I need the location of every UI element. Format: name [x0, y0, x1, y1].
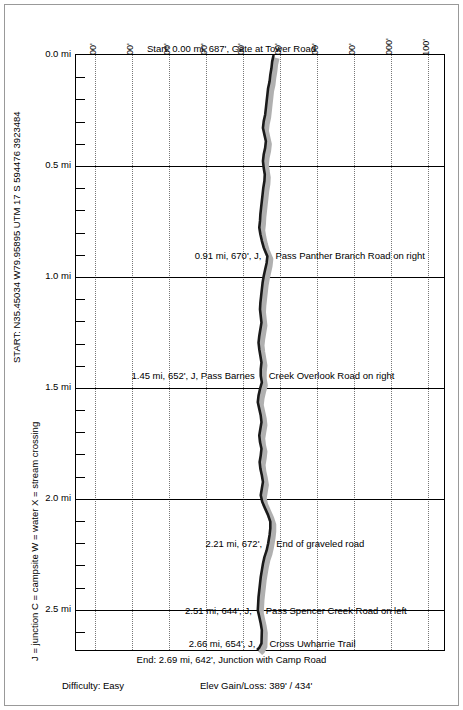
- annotation-end: End: 2.69 mi, 642', Junction with Camp R…: [0, 654, 463, 665]
- start-coordinates-label: START: N35.45034 W79.95895 UTM 17 S 5944…: [11, 111, 22, 363]
- annotation-wp2-left: 1.45 mi, 652', J, Pass Barnes: [0, 370, 255, 381]
- elevation-profile-line: [76, 55, 444, 650]
- annotation-wp4-right: Pass Spencer Creek Road on left: [266, 605, 407, 616]
- difficulty-label: Difficulty: Easy: [62, 680, 124, 691]
- y-tick-label: 1.0 mi: [29, 270, 71, 281]
- annotation-wp1-right: Pass Panther Branch Road on right: [275, 250, 424, 261]
- annotation-wp3-left: 2.21 mi, 672',: [0, 538, 262, 549]
- y-tick-label: 0.5 mi: [29, 159, 71, 170]
- annotation-wp3-right: End of graveled road: [276, 538, 364, 549]
- annotation-wp1-left: 0.91 mi, 670', J,: [0, 250, 261, 261]
- y-tick-label: 2.0 mi: [29, 492, 71, 503]
- chart-plot-area: [75, 54, 445, 651]
- annotation-wp5-right: Cross Uwharrie Trail: [269, 638, 355, 649]
- annotation-wp4-left: 2.51 mi, 644', J,: [0, 605, 252, 616]
- annotation-wp2-right: Creek Overlook Road on right: [269, 370, 395, 381]
- annotation-start: Start: 0.00 mi, 687', Gate at Tower Road: [0, 43, 463, 54]
- y-tick-label: 1.5 mi: [29, 381, 71, 392]
- elevation-profile-page: START: N35.45034 W79.95895 UTM 17 S 5944…: [0, 0, 463, 710]
- annotation-wp5-left: 2.66 mi, 654', J,: [0, 638, 255, 649]
- elev-gain-loss-label: Elev Gain/Loss: 389' / 434': [200, 680, 312, 691]
